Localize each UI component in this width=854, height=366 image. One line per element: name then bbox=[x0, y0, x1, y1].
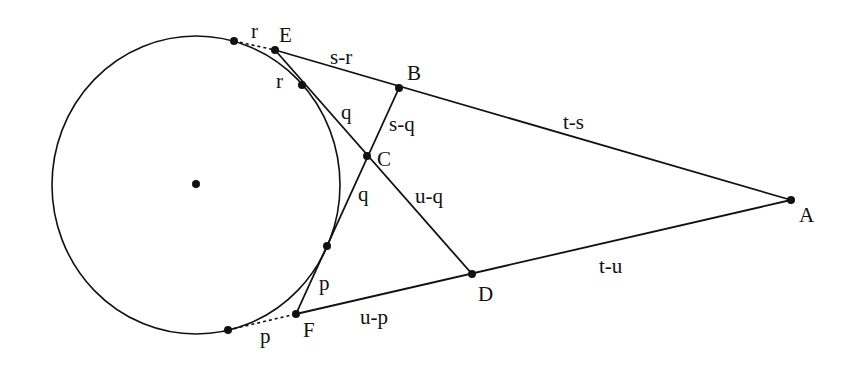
point-F bbox=[292, 310, 300, 318]
point-tangent-r bbox=[298, 81, 306, 89]
point-E bbox=[271, 46, 279, 54]
point-B bbox=[395, 84, 403, 92]
label-E: E bbox=[279, 23, 292, 47]
seg-label-t-u: t-u bbox=[599, 254, 623, 278]
seg-label-t-s: t-s bbox=[563, 110, 584, 134]
center-point bbox=[192, 180, 200, 188]
seg-label-u-q: u-q bbox=[415, 184, 443, 208]
seg-label-p-inner: p bbox=[319, 271, 330, 295]
seg-label-s-q: s-q bbox=[389, 112, 415, 136]
line-F-A bbox=[296, 200, 791, 314]
seg-label-q-lower: q bbox=[358, 182, 369, 206]
point-tangent-p bbox=[323, 242, 331, 250]
seg-label-q-upper: q bbox=[341, 100, 352, 124]
point-C bbox=[363, 152, 371, 160]
line-E-A bbox=[275, 50, 791, 200]
label-C: C bbox=[377, 147, 391, 171]
geometry-diagram: E B C D F A r s-r r q s-q t-s q u-q p t-… bbox=[0, 0, 854, 366]
point-A bbox=[787, 196, 795, 204]
seg-label-u-p: u-p bbox=[360, 305, 388, 329]
point-tangent-bottom bbox=[224, 326, 232, 334]
label-A: A bbox=[799, 203, 815, 227]
seg-label-p-bottom: p bbox=[260, 324, 271, 348]
seg-label-r-inner: r bbox=[276, 69, 283, 93]
label-D: D bbox=[478, 282, 493, 306]
seg-label-r-top: r bbox=[251, 19, 258, 43]
seg-label-s-r: s-r bbox=[330, 45, 352, 69]
point-tangent-top bbox=[230, 37, 238, 45]
label-F: F bbox=[303, 318, 315, 342]
label-B: B bbox=[407, 61, 421, 85]
point-D bbox=[468, 270, 476, 278]
